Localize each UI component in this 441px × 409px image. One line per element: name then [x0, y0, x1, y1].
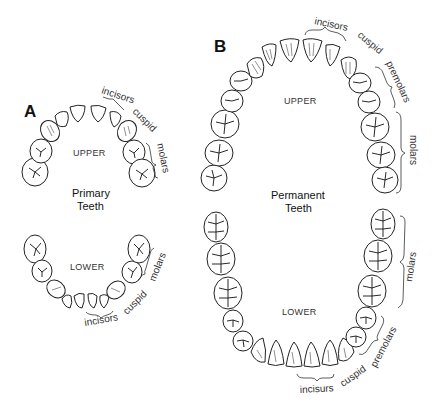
permanent-upper-arch — [201, 39, 398, 193]
tooth-primary-lower-incisor — [100, 295, 109, 308]
panel-b-letter: B — [214, 37, 226, 56]
primary-upper-label: UPPER — [73, 148, 106, 158]
tooth-permanent-upper-incisor — [262, 44, 276, 66]
permanent-lower-incisors-label: incisurs — [300, 382, 334, 395]
tooth-primary-lower-molar — [122, 261, 142, 283]
tooth-permanent-upper-cuspid — [247, 58, 264, 78]
tooth-permanent-upper-incisor — [326, 44, 340, 66]
tooth-primary-lower-incisor — [62, 295, 72, 308]
tooth-primary-lower-molar — [24, 235, 46, 263]
permanent-lower-arch — [204, 209, 395, 367]
tooth-primary-lower-molar — [32, 260, 52, 282]
permanent-lower-cuspid-label: cuspid — [338, 363, 368, 389]
permanent-lower-incisors-brace — [297, 374, 334, 381]
primary-lower-cuspid-label: cuspid — [121, 288, 149, 316]
primary-lower-label: LOWER — [70, 262, 105, 272]
permanent-upper-cuspid-label: cuspid — [356, 29, 385, 56]
primary-upper-molars-label: molars — [155, 142, 172, 174]
primary-title-line2: Teeth — [77, 200, 104, 212]
tooth-permanent-upper-incisor — [280, 39, 299, 62]
tooth-primary-upper-molar — [129, 159, 155, 187]
dental-chart-diagram: A UPPER incisors cuspid molars Primary T… — [0, 0, 441, 409]
primary-title-line1: Primary — [72, 187, 110, 199]
tooth-primary-lower-incisor — [88, 293, 97, 308]
permanent-title-line1: Permanent — [271, 189, 325, 201]
tooth-primary-upper-incisor — [91, 105, 106, 122]
permanent-lower-label: LOWER — [282, 307, 317, 317]
permanent-upper-premolars-label: premolars — [384, 59, 413, 104]
primary-upper-incisors-label: incisors — [100, 84, 136, 105]
tooth-primary-lower-incisor — [74, 293, 84, 308]
permanent-lower-molars-label: molars — [403, 251, 418, 282]
permanent-title-line2: Teeth — [285, 202, 312, 214]
permanent-lower-premolars-label: premolars — [368, 325, 399, 369]
tooth-permanent-lower-incisor — [322, 340, 338, 366]
tooth-primary-upper-incisor — [110, 112, 121, 128]
tooth-permanent-upper-incisor — [303, 39, 322, 62]
panel-a-letter: A — [24, 102, 36, 121]
tooth-permanent-lower-incisor — [304, 342, 320, 367]
permanent-upper-molars-label: molars — [408, 135, 419, 165]
tooth-primary-upper-incisor — [70, 105, 85, 122]
tooth-primary-upper-molar — [30, 139, 52, 163]
tooth-primary-upper-incisor — [55, 112, 68, 127]
permanent-lower-molars-brace — [398, 216, 405, 308]
permanent-upper-label: UPPER — [284, 96, 317, 106]
